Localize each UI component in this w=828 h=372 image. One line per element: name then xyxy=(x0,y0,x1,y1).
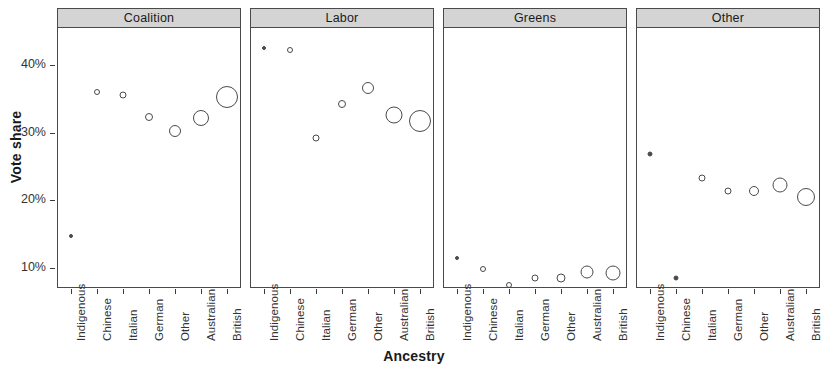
x-axis-tick-mark xyxy=(676,289,677,294)
data-point xyxy=(581,266,594,279)
x-axis-tick-mark xyxy=(394,289,395,294)
x-axis-tick-label: Indigenous xyxy=(75,284,87,341)
y-axis-tick-label: 30% xyxy=(6,125,46,139)
data-point xyxy=(338,100,346,108)
x-axis-tick-label: German xyxy=(732,299,744,341)
x-axis-tick-mark xyxy=(509,289,510,294)
x-axis-tick-mark xyxy=(806,289,807,294)
x-axis-tick-label: Australian xyxy=(784,289,796,341)
data-point xyxy=(193,110,209,126)
data-point xyxy=(797,188,815,206)
x-axis-tick-label: British xyxy=(424,308,436,341)
x-axis-tick-label: Other xyxy=(372,312,384,341)
x-axis-tick-mark xyxy=(71,289,72,294)
x-axis-tick-label: Chinese xyxy=(101,298,113,341)
x-axis-tick-label: Other xyxy=(179,312,191,341)
data-point xyxy=(480,266,486,272)
x-axis-tick-label: German xyxy=(153,299,165,341)
x-axis-tick-label: German xyxy=(346,299,358,341)
data-point xyxy=(506,282,512,288)
panel-strip-label: Greens xyxy=(443,8,627,28)
x-axis-title: Ancestry xyxy=(0,348,828,364)
data-point xyxy=(216,86,238,108)
x-axis-tick-label: Italian xyxy=(513,310,525,341)
data-point xyxy=(262,46,266,50)
y-axis-tick-mark xyxy=(50,65,55,66)
x-axis-tick-mark xyxy=(650,289,651,294)
y-axis-tick-mark xyxy=(50,200,55,201)
data-point xyxy=(749,186,759,196)
x-axis-tick-label: Indigenous xyxy=(461,284,473,341)
x-axis-tick-mark xyxy=(201,289,202,294)
x-axis-tick-mark xyxy=(316,289,317,294)
x-axis-tick-mark xyxy=(535,289,536,294)
x-axis-tick-mark xyxy=(290,289,291,294)
x-axis-tick-label: Chinese xyxy=(487,298,499,341)
x-axis-tick-mark xyxy=(587,289,588,294)
x-axis-tick-label: Australian xyxy=(591,289,603,341)
x-axis-tick-label: Other xyxy=(565,312,577,341)
x-axis-tick-mark xyxy=(561,289,562,294)
plot-area xyxy=(57,28,241,288)
data-point xyxy=(455,256,459,260)
x-axis-tick-mark xyxy=(123,289,124,294)
x-axis-tick-mark xyxy=(420,289,421,294)
x-axis-tick-mark xyxy=(149,289,150,294)
data-point xyxy=(169,125,181,137)
x-axis-tick-mark xyxy=(613,289,614,294)
x-axis-tick-label: Australian xyxy=(398,289,410,341)
scatter-chart-figure: Vote share Ancestry 10%20%30%40% Coaliti… xyxy=(0,0,828,372)
data-point xyxy=(386,107,403,124)
data-point xyxy=(287,47,293,53)
panel-strip-label: Other xyxy=(636,8,820,28)
x-axis-tick-mark xyxy=(702,289,703,294)
data-point xyxy=(145,113,153,121)
data-point xyxy=(725,187,732,194)
data-point xyxy=(773,177,788,192)
x-axis-tick-label: Indigenous xyxy=(268,284,280,341)
data-point xyxy=(409,110,431,132)
facet-panel-greens: Greens xyxy=(443,8,627,288)
x-axis-tick-mark xyxy=(457,289,458,294)
y-axis-tick-label: 10% xyxy=(6,260,46,274)
x-axis-tick-mark xyxy=(175,289,176,294)
x-axis-tick-mark xyxy=(483,289,484,294)
x-axis-tick-label: British xyxy=(810,308,822,341)
data-point xyxy=(313,134,320,141)
x-axis-tick-mark xyxy=(368,289,369,294)
x-axis-tick-mark xyxy=(754,289,755,294)
facet-panel-other: Other xyxy=(636,8,820,288)
y-axis-title: Vote share xyxy=(8,87,24,207)
x-axis-tick-mark xyxy=(780,289,781,294)
panel-strip-label: Coalition xyxy=(57,8,241,28)
data-point xyxy=(69,234,73,238)
x-axis-tick-label: Italian xyxy=(127,310,139,341)
x-axis-tick-label: Indigenous xyxy=(654,284,666,341)
data-point xyxy=(532,275,539,282)
y-axis-tick-label: 40% xyxy=(6,57,46,71)
x-axis-tick-label: Italian xyxy=(320,310,332,341)
x-axis-tick-label: British xyxy=(231,308,243,341)
x-axis-tick-label: Italian xyxy=(706,310,718,341)
data-point xyxy=(699,174,706,181)
x-axis-tick-mark xyxy=(227,289,228,294)
x-axis-tick-label: German xyxy=(539,299,551,341)
y-axis-tick-mark xyxy=(50,268,55,269)
x-axis-tick-label: Other xyxy=(758,312,770,341)
x-axis-tick-label: Chinese xyxy=(294,298,306,341)
x-axis-tick-mark xyxy=(97,289,98,294)
x-axis-tick-mark xyxy=(728,289,729,294)
data-point xyxy=(606,266,621,281)
x-axis-tick-label: Australian xyxy=(205,289,217,341)
x-axis-tick-mark xyxy=(264,289,265,294)
y-axis-tick-mark xyxy=(50,133,55,134)
data-point xyxy=(648,152,653,157)
plot-area xyxy=(250,28,434,288)
y-axis-tick-label: 20% xyxy=(6,192,46,206)
x-axis-tick-mark xyxy=(342,289,343,294)
plot-area xyxy=(636,28,820,288)
panel-strip-label: Labor xyxy=(250,8,434,28)
x-axis-tick-label: Chinese xyxy=(680,298,692,341)
data-point xyxy=(120,91,127,98)
plot-area xyxy=(443,28,627,288)
